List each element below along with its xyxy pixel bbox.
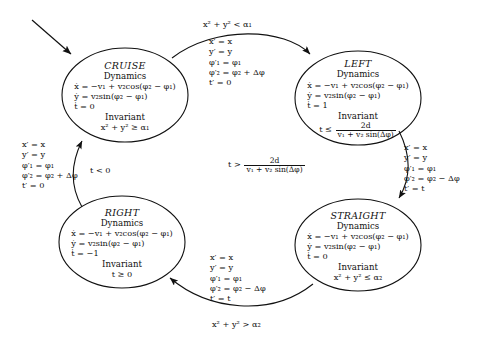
equation: ẏ = v₂sin(φ₂ − φ₁) — [307, 90, 380, 100]
equation: ṫ = −1 — [71, 248, 98, 258]
equation: ẋ = −v₁ + v₂cos(φ₂ − φ₁) — [74, 81, 176, 91]
reset-cruise-to-left: x′ = x y′ = y φ′₁ = φ₁ φ′₂ = φ₂ + Δφ t′ … — [209, 36, 265, 87]
invariant-label-right: Invariant — [102, 260, 142, 269]
fraction-numerator: 2d — [359, 122, 373, 130]
dynamics-equations-straight: ẋ = −v₁ + v₂cos(φ₂ − φ₁) ẏ = v₂sin(φ₂ − … — [307, 231, 409, 261]
state-left[interactable]: LEFT Dynamics ẋ = −v₁ + v₂cos(φ₂ − φ₁) ẏ… — [295, 53, 421, 145]
dynamics-label-cruise: Dynamics — [104, 72, 147, 81]
fraction-denominator: v₁ + v₂ sin(Δφ) — [244, 165, 304, 174]
equation: ṫ = 0 — [74, 101, 95, 111]
reset-line: φ′₂ = φ₂ − Δφ — [404, 173, 460, 183]
state-cruise[interactable]: CRUISE Dynamics ẋ = −v₁ + v₂cos(φ₂ − φ₁)… — [62, 50, 188, 142]
reset-line: t′ = 0 — [22, 180, 44, 190]
reset-right-to-cruise: x′ = x y′ = y φ′₁ = φ₁ φ′₂ = φ₂ + Δφ t′ … — [22, 139, 78, 190]
reset-line: y′ = y — [22, 149, 45, 159]
equation: ẏ = v₂sin(φ₂ − φ₁) — [74, 91, 147, 101]
guard-left-to-straight: t > 2d v₁ + v₂ sin(Δφ) — [228, 157, 306, 174]
reset-line: φ′₁ = φ₁ — [210, 273, 242, 283]
reset-line: y′ = y — [209, 46, 232, 56]
reset-line: t′ = t — [404, 183, 425, 193]
invariant-label-left: Invariant — [338, 112, 378, 121]
invariant-cruise: x² + y² ≥ α₁ — [101, 123, 150, 132]
dynamics-equations-left: ẋ = −v₁ + v₂cos(φ₂ − φ₁) ẏ = v₂sin(φ₂ − … — [307, 80, 409, 110]
invariant-straight: x² + y² ≤ α₂ — [334, 273, 383, 282]
guard-fraction: 2d v₁ + v₂ sin(Δφ) — [244, 157, 304, 174]
invariant-label-straight: Invariant — [338, 263, 378, 272]
state-name-cruise: CRUISE — [104, 61, 145, 71]
state-straight[interactable]: STRAIGHT Dynamics ẋ = −v₁ + v₂cos(φ₂ − φ… — [295, 201, 421, 291]
fraction-numerator: 2d — [268, 157, 282, 165]
reset-line: y′ = y — [404, 152, 427, 162]
reset-line: φ′₁ = φ₁ — [22, 160, 54, 170]
invariant-lhs: t ≤ — [319, 124, 332, 134]
reset-line: x′ = x — [209, 36, 232, 46]
dynamics-label-left: Dynamics — [337, 70, 380, 79]
state-right[interactable]: RIGHT Dynamics ẋ = −v₁ + v₂cos(φ₂ − φ₁) … — [59, 198, 185, 288]
state-name-left: LEFT — [344, 59, 371, 69]
state-name-right: RIGHT — [105, 208, 140, 218]
invariant-right: t ≥ 0 — [112, 270, 133, 279]
dynamics-equations-right: ẋ = −v₁ + v₂cos(φ₂ − φ₁) ẏ = v₂sin(φ₂ − … — [71, 228, 173, 258]
equation: ṫ = 1 — [307, 100, 328, 110]
reset-line: φ′₂ = φ₂ + Δφ — [22, 170, 78, 180]
equation: ẋ = −v₁ + v₂cos(φ₂ − φ₁) — [307, 231, 409, 241]
reset-straight-to-right: x′ = x y′ = y φ′₁ = φ₁ φ′₂ = φ₂ − Δφ t′ … — [210, 252, 266, 303]
reset-line: φ′₂ = φ₂ + Δφ — [209, 67, 265, 77]
reset-line: φ′₁ = φ₁ — [404, 163, 436, 173]
guard-lhs: t > — [228, 159, 241, 169]
reset-line: x′ = x — [404, 142, 427, 152]
reset-line: φ′₁ = φ₁ — [209, 57, 241, 67]
guard-straight-to-right: x² + y² > α₂ — [212, 319, 261, 329]
reset-line: t′ = t — [210, 293, 231, 303]
reset-line: t′ = 0 — [209, 77, 231, 87]
equation: ẋ = −v₁ + v₂cos(φ₂ − φ₁) — [71, 228, 173, 238]
guard-cruise-to-left: x² + y² < α₁ — [203, 19, 252, 29]
equation: ẏ = v₂sin(φ₂ − φ₁) — [307, 241, 380, 251]
reset-line: x′ = x — [22, 139, 45, 149]
fraction-denominator: v₁ + v₂ sin(Δφ) — [336, 130, 396, 139]
invariant-label-cruise: Invariant — [105, 113, 145, 122]
reset-left-to-straight: x′ = x y′ = y φ′₁ = φ₁ φ′₂ = φ₂ − Δφ t′ … — [404, 142, 460, 193]
reset-line: x′ = x — [210, 252, 233, 262]
invariant-fraction: 2d v₁ + v₂ sin(Δφ) — [336, 122, 396, 139]
equation: ẋ = −v₁ + v₂cos(φ₂ − φ₁) — [307, 80, 409, 90]
equation: ẏ = v₂sin(φ₂ − φ₁) — [71, 238, 144, 248]
dynamics-equations-cruise: ẋ = −v₁ + v₂cos(φ₂ − φ₁) ẏ = v₂sin(φ₂ − … — [74, 81, 176, 111]
reset-line: φ′₂ = φ₂ − Δφ — [210, 283, 266, 293]
reset-line: y′ = y — [210, 262, 233, 272]
initial-state-arrow — [32, 20, 71, 54]
invariant-left: t ≤ 2d v₁ + v₂ sin(Δφ) — [319, 122, 397, 139]
dynamics-label-right: Dynamics — [101, 219, 144, 228]
equation: ṫ = 0 — [307, 251, 328, 261]
state-name-straight: STRAIGHT — [330, 211, 385, 221]
guard-right-to-cruise: t < 0 — [90, 165, 111, 175]
state-machine-diagram: CRUISE Dynamics ẋ = −v₁ + v₂cos(φ₂ − φ₁)… — [0, 0, 486, 346]
dynamics-label-straight: Dynamics — [337, 222, 380, 231]
